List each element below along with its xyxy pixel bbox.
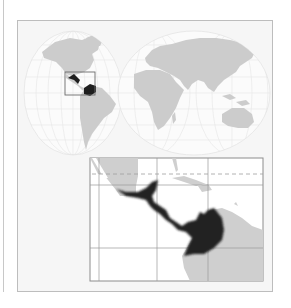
world-map-east-hemisphere xyxy=(115,30,275,156)
world-map-west-hemisphere xyxy=(20,30,130,156)
inset-map xyxy=(90,158,263,281)
map-figure xyxy=(0,0,291,308)
